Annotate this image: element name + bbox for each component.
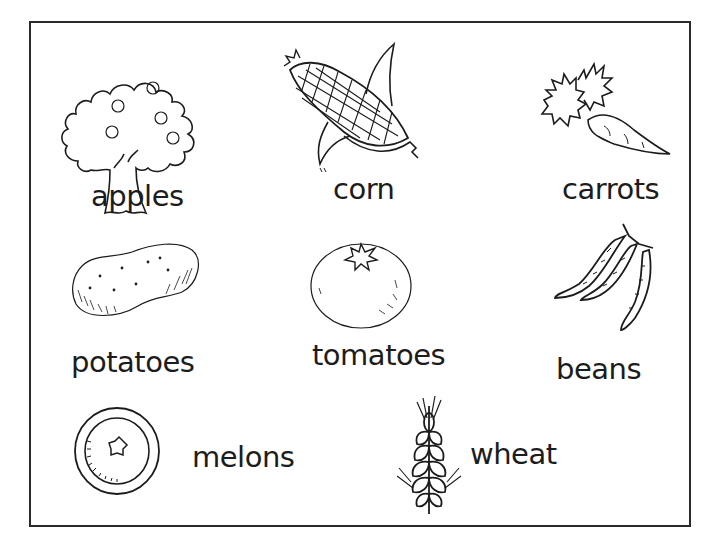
item-label-beans: beans — [556, 355, 641, 384]
bean-pods-icon — [553, 222, 663, 337]
item-label-potatoes: potatoes — [71, 348, 194, 377]
item-label-corn: corn — [333, 175, 394, 204]
tomato-icon — [307, 240, 417, 330]
item-label-melons: melons — [192, 443, 294, 472]
item-label-tomatoes: tomatoes — [312, 341, 445, 370]
potato-icon — [70, 240, 205, 320]
wheat-stalk-icon — [395, 396, 465, 516]
item-label-carrots: carrots — [562, 175, 659, 204]
carrot-icon — [538, 50, 678, 160]
melon-slice-icon — [73, 405, 163, 497]
item-label-apples: apples — [91, 182, 184, 211]
item-label-wheat: wheat — [470, 440, 557, 469]
